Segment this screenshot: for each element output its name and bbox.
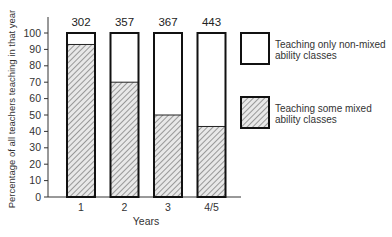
- y-tick-label: 80: [29, 59, 41, 71]
- legend: Teaching only non-mixedability classesTe…: [241, 33, 386, 128]
- x-tick-label: 3: [165, 201, 171, 213]
- y-tick-label: 30: [29, 141, 41, 153]
- legend-label: ability classes: [275, 50, 337, 61]
- legend-item: Teaching some mixedability classes: [241, 97, 372, 128]
- y-tick-label: 90: [29, 43, 41, 55]
- bar-segment-mixed: [111, 82, 139, 197]
- x-tick-label: 2: [122, 201, 128, 213]
- y-tick-label: 100: [23, 27, 41, 39]
- x-axis-label: Years: [133, 215, 159, 227]
- bar-segment-non-mixed: [67, 33, 95, 44]
- y-axis-label: Percentage of all teachers teaching in t…: [6, 10, 17, 209]
- bar-count-label: 357: [115, 16, 134, 28]
- y-axis: 0102030405060708090100: [23, 17, 48, 203]
- x-tick-label: 4/5: [204, 201, 219, 213]
- y-tick-label: 40: [29, 125, 41, 137]
- legend-label: Teaching only non-mixed: [275, 39, 386, 50]
- bar-count-label: 367: [158, 16, 177, 28]
- legend-item: Teaching only non-mixedability classes: [241, 33, 386, 64]
- stacked-bar-chart: 0102030405060708090100 Percentage of all…: [0, 0, 392, 237]
- bar-group: 3572: [111, 16, 139, 213]
- bar-segment-non-mixed: [154, 33, 182, 115]
- bar-segment-mixed: [198, 126, 226, 197]
- legend-swatch: [241, 33, 269, 64]
- bar-segment-mixed: [67, 44, 95, 197]
- legend-label: Teaching some mixed: [275, 103, 372, 114]
- y-tick-label: 50: [29, 109, 41, 121]
- bar-count-label: 302: [71, 16, 90, 28]
- y-tick-label: 20: [29, 158, 41, 170]
- y-tick-label: 70: [29, 76, 41, 88]
- legend-swatch: [241, 97, 269, 128]
- y-tick-label: 60: [29, 92, 41, 104]
- y-tick-label: 10: [29, 174, 41, 186]
- bar-segment-non-mixed: [111, 33, 139, 82]
- bar-segment-non-mixed: [198, 33, 226, 126]
- y-tick-label: 0: [35, 191, 41, 203]
- bar-segment-mixed: [154, 115, 182, 197]
- bar-group: 3673: [154, 16, 182, 213]
- x-tick-label: 1: [78, 201, 84, 213]
- bar-group: 3021: [67, 16, 95, 213]
- bars: 3021357236734434/5: [67, 16, 226, 213]
- bar-count-label: 443: [202, 16, 221, 28]
- legend-label: ability classes: [275, 114, 337, 125]
- bar-group: 4434/5: [198, 16, 226, 213]
